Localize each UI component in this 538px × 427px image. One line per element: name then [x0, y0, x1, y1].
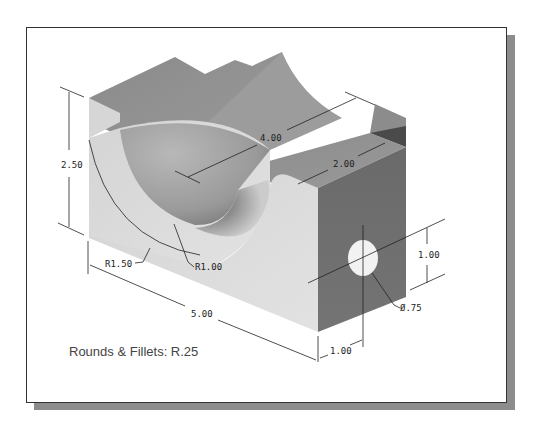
dimension-hole-vertical-label: 1.00 — [418, 250, 440, 260]
slot-far-opening — [342, 104, 375, 118]
rounds-fillets-note: Rounds & Fillets: R.25 — [69, 344, 198, 359]
dimension-height-label: 2.50 — [61, 160, 83, 170]
dimension-slot-width-label: 2.00 — [333, 159, 355, 169]
dimension-channel-length-label: 4.00 — [260, 133, 282, 143]
isometric-part-drawing: 2.50 5.00 4.00 2.00 R1.50 R1.00 1 — [0, 0, 538, 427]
dimension-hole-horizontal-label: 1.00 — [330, 346, 352, 356]
dimension-length-label: 5.00 — [191, 309, 213, 319]
hole-diameter-label: Ø.75 — [400, 303, 422, 313]
inner-radius-label: R1.00 — [195, 262, 222, 272]
outer-radius-label: R1.50 — [105, 259, 132, 269]
